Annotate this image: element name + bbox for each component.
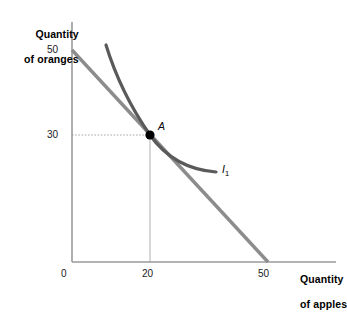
x-axis-title-line1: Quantity — [300, 273, 343, 285]
indifference-curve-i1 — [106, 45, 216, 172]
y-tick-label-50: 50 — [47, 44, 58, 56]
point-a-label: A — [158, 120, 165, 132]
x-tick-label-20: 20 — [142, 268, 153, 280]
y-tick-label-30: 30 — [47, 129, 58, 141]
y-axis-title: Quantity of oranges — [12, 16, 79, 78]
indifference-curve-label: I1 — [222, 163, 229, 179]
x-axis-title: Quantity of apples — [288, 261, 347, 314]
y-axis-title-line1: Quantity — [35, 28, 78, 40]
x-tick-label-0: 0 — [61, 268, 67, 280]
point-a-marker — [145, 130, 154, 139]
x-axis-title-line2: of apples — [300, 298, 347, 310]
curve-label-subscript: 1 — [225, 169, 229, 178]
x-tick-label-50: 50 — [258, 268, 269, 280]
